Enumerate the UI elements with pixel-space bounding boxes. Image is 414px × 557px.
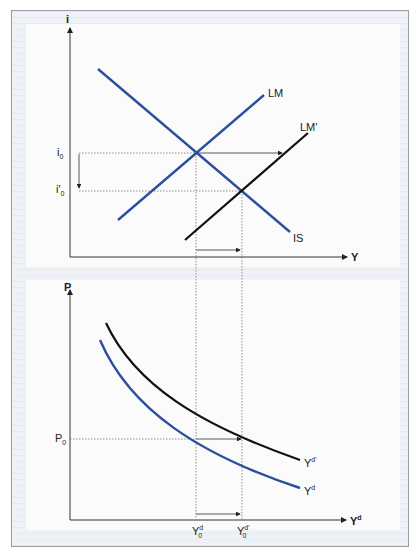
- is-curve: [98, 69, 290, 232]
- yd-curve: [100, 340, 300, 488]
- lm-prime-label: LM': [300, 122, 317, 133]
- guide-lines-top: [79, 153, 242, 519]
- p0-label: P0: [55, 433, 66, 446]
- i-axis-label: i: [66, 14, 69, 25]
- yd-axis-label: Yd: [350, 514, 362, 527]
- yd-prime-curve: [106, 323, 300, 460]
- diagram-svg: [0, 0, 414, 557]
- yd0-prime-tick-label: Yd'0: [237, 524, 246, 539]
- yd-prime-label: Yd': [304, 456, 317, 469]
- y-axis-label-top: Y: [351, 252, 358, 263]
- i0-label: i0: [57, 147, 63, 160]
- is-label: IS: [293, 233, 303, 244]
- p-axis-label: P: [64, 282, 71, 293]
- yd-label: Yd: [304, 484, 315, 497]
- i0-prime-label: i'0: [56, 184, 64, 197]
- lm-prime-curve: [185, 133, 308, 240]
- lm-label: LM: [268, 88, 283, 99]
- yd0-tick-label: Yd0: [192, 524, 202, 539]
